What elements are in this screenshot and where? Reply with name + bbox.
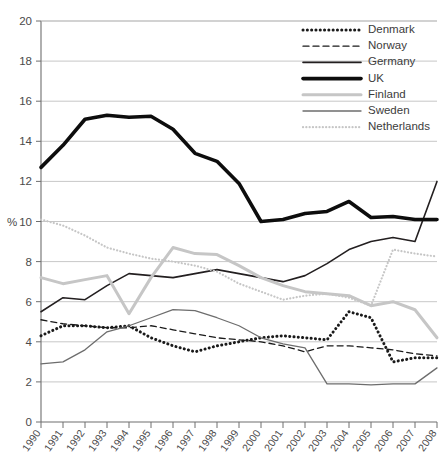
y-tick-label: 18 [19,55,32,67]
series-line-sweden [41,310,437,385]
truncated-title [10,0,430,2]
x-tick-label: 2005 [349,427,372,453]
x-tick-label: 2002 [283,427,306,453]
y-tick-label: 10 [19,216,32,228]
y-tick-label: 14 [19,135,32,147]
series-group [41,115,437,385]
legend-label-finland: Finland [368,88,406,100]
y-tick-label: 0 [26,416,32,428]
legend-label-denmark: Denmark [368,23,415,35]
x-tick-label: 2006 [371,427,394,453]
x-tick-label: 1996 [151,427,174,453]
y-tick-label: 16 [19,95,32,107]
x-tick-label: 1993 [85,427,108,453]
legend-label-norway: Norway [368,39,407,51]
series-line-netherlands [41,220,437,306]
legend-label-uk: UK [368,72,384,84]
legend-label-sweden: Sweden [368,104,410,116]
x-tick-label: 1998 [195,427,218,453]
y-tick-label: 20 [19,15,32,27]
x-tick-label: 1997 [173,427,196,453]
y-tick-label: 12 [19,175,32,187]
chart-canvas: 02468101214161820 1990199119921993199419… [0,0,445,455]
x-tick-label: 2007 [393,427,416,453]
y-tick-label: 6 [26,296,32,308]
legend-group: DenmarkNorwayGermanyUKFinlandSwedenNethe… [303,23,430,132]
x-tick-label: 2008 [415,427,438,453]
x-tick-label: 1999 [217,427,240,453]
legend-label-germany: Germany [368,55,416,67]
x-tick-label: 1990 [19,427,42,453]
x-tick-label: 2003 [305,427,328,453]
series-line-finland [41,248,437,338]
legend-label-netherlands: Netherlands [368,120,430,132]
y-tick-label: 4 [26,336,33,348]
x-axis-ticks-group: 1990199119921993199419951996199719981999… [19,422,438,453]
x-tick-label: 1994 [107,427,130,453]
y-axis-ticks-group: 02468101214161820 [19,15,41,428]
x-tick-label: 1991 [41,427,64,453]
x-tick-label: 1992 [63,427,86,453]
line-chart-figure: 02468101214161820 1990199119921993199419… [0,0,445,455]
y-tick-label: 8 [26,256,32,268]
x-tick-label: 2004 [327,427,350,453]
y-tick-label: 2 [26,376,32,388]
series-line-germany [41,181,437,311]
y-axis-label: % [7,216,17,228]
x-tick-label: 1995 [129,427,152,453]
x-tick-label: 2000 [239,427,262,453]
x-tick-label: 2001 [261,427,284,453]
